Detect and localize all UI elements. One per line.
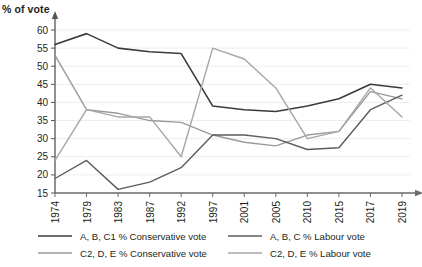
- x-tick-label: 2019: [397, 201, 408, 224]
- y-tick-label: 35: [37, 115, 49, 126]
- x-tick-label: 1979: [82, 201, 93, 224]
- y-tick-label: 50: [37, 61, 49, 72]
- x-tick-label: 2001: [239, 201, 250, 224]
- y-tick-label: 45: [37, 79, 49, 90]
- legend-label: C2, D, E % Conservative vote: [80, 248, 207, 259]
- y-tick-label: 15: [37, 188, 49, 199]
- x-tick-label: 1997: [208, 201, 219, 224]
- x-axis: 1974197919831987199219972001200520102015…: [50, 190, 422, 223]
- y-tick-label: 30: [37, 133, 49, 144]
- series-line: [55, 48, 402, 160]
- y-tick-label: 20: [37, 169, 49, 180]
- series-line: [55, 55, 402, 146]
- x-tick-label: 2005: [271, 201, 282, 224]
- x-tick-label: 1987: [145, 201, 156, 224]
- legend-label: A, B, C1 % Conservative vote: [80, 231, 206, 242]
- chart-svg: 60555045403530252015 1974197919831987199…: [0, 0, 422, 267]
- legend-label: C2, D, E % Labour vote: [270, 248, 371, 259]
- x-tick-label: 2015: [334, 201, 345, 224]
- chart-legend: A, B, C1 % Conservative voteC2, D, E % C…: [38, 231, 371, 259]
- legend-label: A, B, C % Labour vote: [270, 231, 365, 242]
- y-tick-label: 55: [37, 43, 49, 54]
- y-tick-label: 60: [37, 25, 49, 36]
- y-tick-label: 40: [37, 97, 49, 108]
- x-tick-label: 2010: [302, 201, 313, 224]
- y-axis-arrow-icon: [52, 11, 58, 19]
- chart-container: % of vote 60555045403530252015 197419791…: [0, 0, 422, 267]
- series-line: [55, 34, 402, 112]
- x-tick-label: 1974: [50, 201, 61, 224]
- x-axis-arrow-icon: [415, 190, 422, 196]
- series-lines: [55, 34, 402, 190]
- y-tick-label: 25: [37, 151, 49, 162]
- y-axis: 60555045403530252015: [37, 11, 58, 199]
- x-tick-label: 2017: [365, 201, 376, 224]
- x-tick-label: 1983: [113, 201, 124, 224]
- x-tick-label: 1992: [176, 201, 187, 224]
